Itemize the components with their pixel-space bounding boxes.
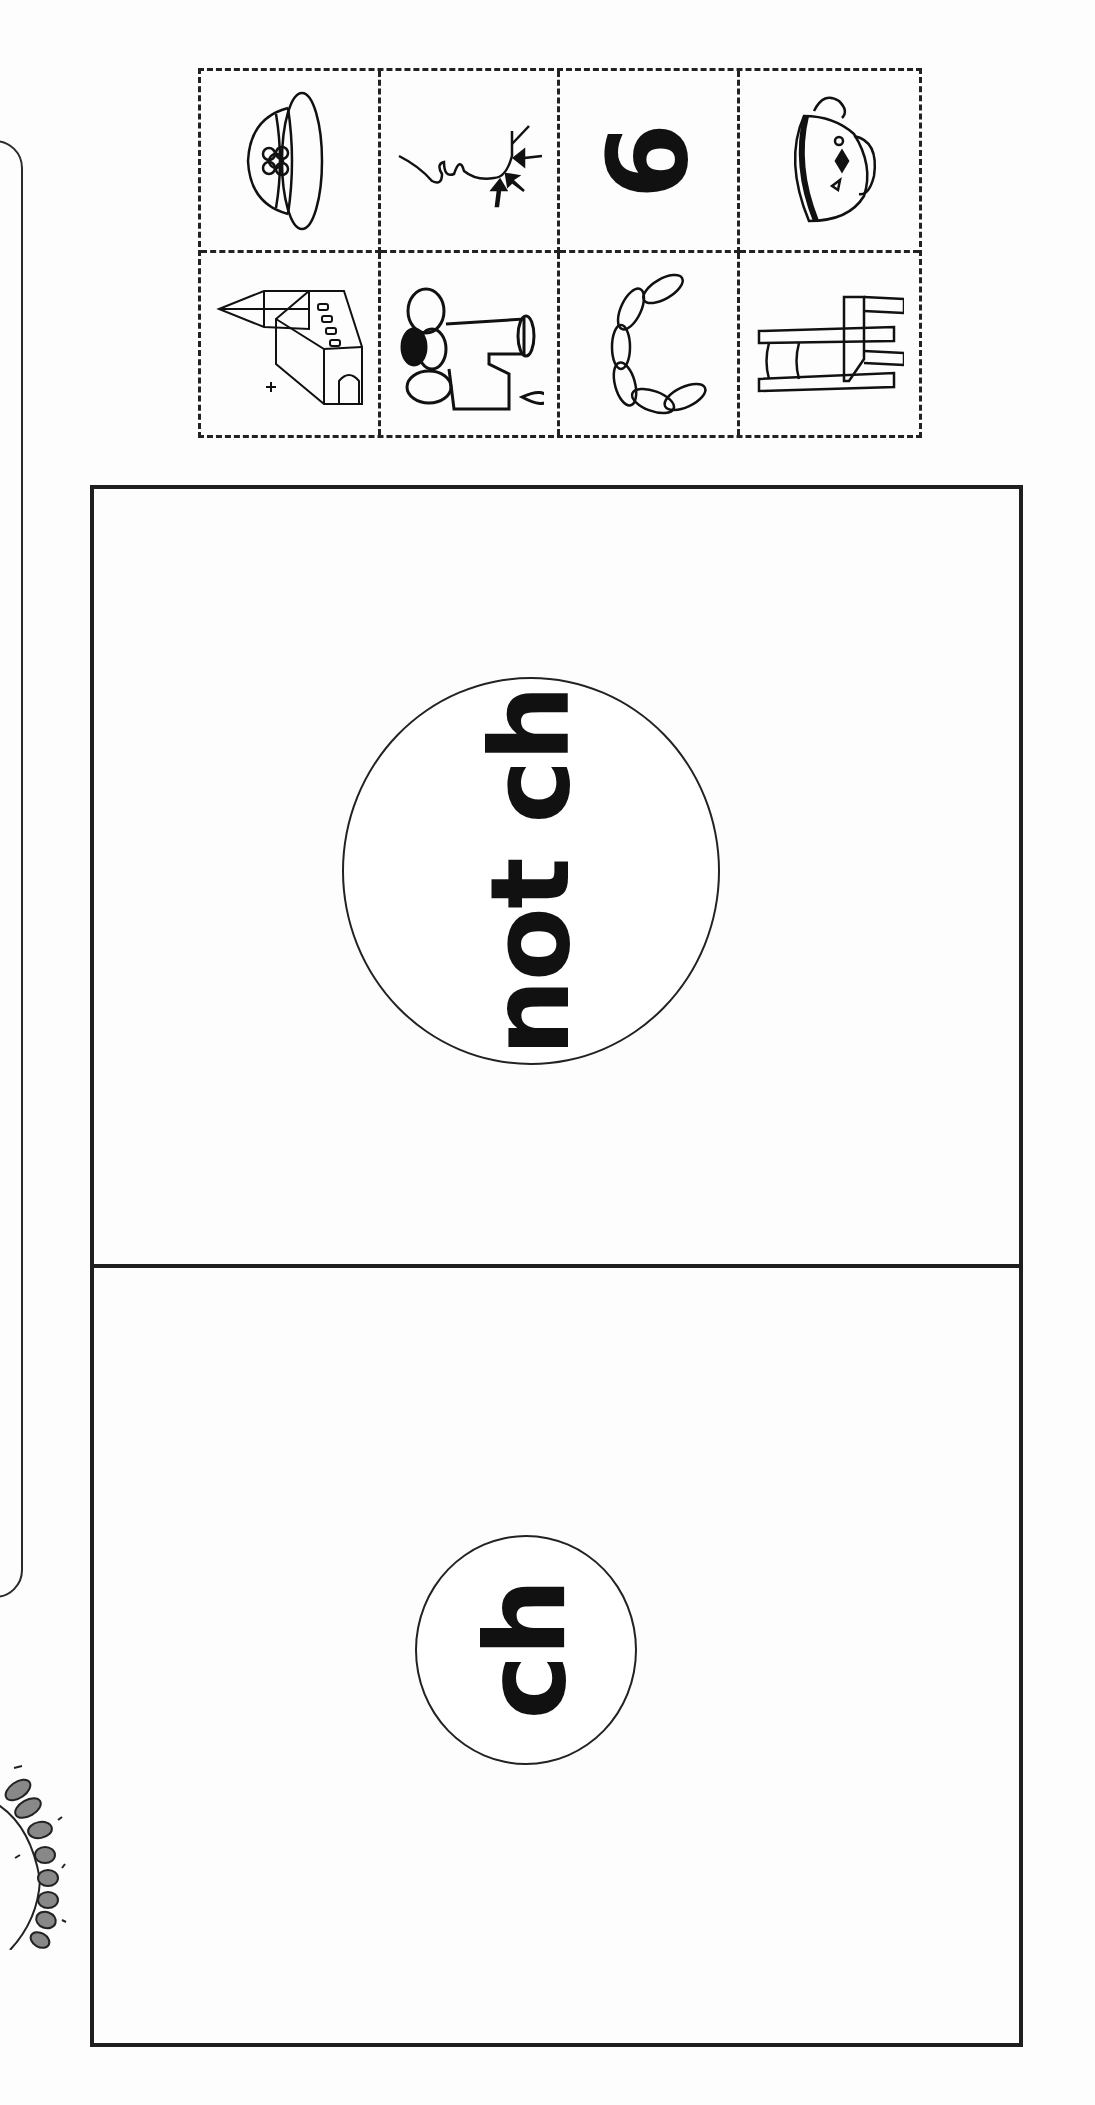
rounded-side-panel bbox=[0, 140, 23, 1598]
zone-label-not-ch: not ch bbox=[469, 686, 594, 1055]
hat-icon bbox=[214, 86, 364, 236]
chain-icon bbox=[573, 269, 723, 419]
card-hat[interactable] bbox=[201, 71, 381, 253]
sort-board: not ch ch bbox=[90, 485, 1023, 2047]
church-icon bbox=[214, 269, 364, 419]
sort-zone-not-ch[interactable]: not ch bbox=[94, 489, 1019, 1268]
zone-label-circle: not ch bbox=[342, 677, 720, 1065]
chair-icon bbox=[754, 269, 904, 419]
teacup-icon bbox=[754, 86, 904, 236]
six-icon: 6 bbox=[593, 122, 703, 199]
card-faucet[interactable] bbox=[381, 253, 561, 435]
picture-card-grid: 6 bbox=[198, 68, 922, 438]
card-cup[interactable] bbox=[740, 71, 920, 253]
sun-doodle-icon bbox=[0, 1760, 80, 1950]
faucet-icon bbox=[394, 269, 544, 419]
card-chin[interactable] bbox=[381, 71, 561, 253]
card-church[interactable] bbox=[201, 253, 381, 435]
card-chain[interactable] bbox=[560, 253, 740, 435]
zone-label-circle: ch bbox=[415, 1535, 637, 1765]
chin-icon bbox=[394, 86, 544, 236]
sort-zone-ch[interactable]: ch bbox=[94, 1268, 1019, 2043]
card-six[interactable]: 6 bbox=[560, 71, 740, 253]
zone-label-ch: ch bbox=[462, 1580, 590, 1720]
card-chair[interactable] bbox=[740, 253, 920, 435]
